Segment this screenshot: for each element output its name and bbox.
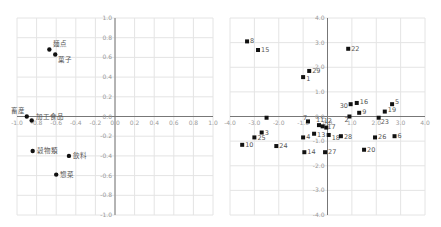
point-label: 畜産: [11, 106, 25, 115]
data-point: 20: [362, 146, 375, 154]
square-marker-icon: [265, 116, 269, 120]
square-marker-icon: [245, 39, 249, 43]
x-tick-label: 3.0: [396, 119, 406, 126]
point-label: 20: [367, 146, 375, 154]
square-marker-icon: [327, 133, 331, 137]
square-marker-icon: [355, 101, 359, 105]
data-point: 9: [357, 108, 366, 116]
y-tick-label: 0.4: [102, 73, 112, 80]
square-marker-icon: [256, 48, 260, 52]
point-label: 7: [303, 114, 307, 122]
point-label: 10: [245, 141, 253, 149]
square-marker-icon: [307, 69, 311, 73]
point-label: 6: [398, 132, 402, 140]
y-tick-label: -0.6: [100, 172, 112, 179]
x-tick-label: -1.0: [11, 119, 23, 126]
right-data-points: 8152229130165199223711121731318286254261…: [240, 37, 401, 156]
square-marker-icon: [349, 102, 353, 106]
data-point: 10: [240, 141, 253, 149]
circle-marker-icon: [25, 114, 29, 118]
square-marker-icon: [373, 135, 377, 139]
square-marker-icon: [312, 132, 316, 136]
circle-marker-icon: [53, 52, 57, 56]
point-label: 13: [317, 131, 325, 139]
data-point: 29: [307, 67, 320, 75]
data-point: 4: [301, 133, 310, 141]
data-point: 27: [323, 148, 336, 156]
y-tick-label: 1.0: [102, 14, 112, 21]
x-tick-label: 0.4: [149, 119, 159, 126]
point-label: 27: [328, 148, 336, 156]
y-tick-label: 0.6: [102, 53, 112, 60]
square-marker-icon: [302, 150, 306, 154]
data-point: 穀物類: [30, 146, 57, 155]
data-point: 惣菜: [54, 170, 74, 179]
data-point: 1: [301, 75, 310, 83]
point-label: 17: [327, 123, 335, 131]
data-point: 6: [393, 132, 402, 140]
square-marker-icon: [357, 111, 361, 115]
point-label: 4: [306, 133, 310, 141]
square-marker-icon: [301, 75, 305, 79]
y-tick-label: -3.0: [313, 186, 325, 193]
point-label: 26: [378, 133, 386, 141]
x-tick-label: -0.2: [90, 119, 102, 126]
point-label: 24: [279, 142, 287, 150]
circle-marker-icon: [47, 47, 51, 51]
circle-marker-icon: [30, 118, 34, 122]
y-tick-label: 0.2: [102, 93, 112, 100]
y-tick-label: -2.0: [313, 162, 325, 169]
point-label: 惣菜: [60, 170, 74, 179]
y-tick-label: -0.8: [100, 191, 112, 198]
point-label: 30: [340, 102, 348, 110]
y-tick-label: 3.0: [315, 39, 325, 46]
square-marker-icon: [274, 144, 278, 148]
point-label: 23: [381, 118, 389, 126]
circle-marker-icon: [54, 172, 58, 176]
point-label: 18: [332, 134, 340, 142]
point-label: 2: [344, 116, 348, 124]
data-point: 8: [245, 37, 254, 45]
x-tick-label: 4.0: [420, 119, 430, 126]
circle-marker-icon: [30, 149, 34, 153]
point-label: 19: [388, 106, 396, 114]
point-label: 1: [306, 75, 310, 83]
y-tick-label: -0.4: [100, 152, 112, 159]
point-label: 28: [344, 133, 352, 141]
point-label: 飲料: [73, 151, 87, 160]
data-point: [265, 116, 269, 120]
x-tick-label: -3.0: [249, 119, 261, 126]
data-point: 麺点: [47, 39, 67, 52]
point-label: 菓子: [58, 55, 72, 64]
x-tick-label: -4.0: [224, 119, 236, 126]
y-tick-label: 0.8: [102, 34, 112, 41]
data-point: 26: [373, 133, 386, 141]
point-label: 麺点: [53, 39, 67, 48]
square-marker-icon: [301, 135, 305, 139]
square-marker-icon: [362, 148, 366, 152]
data-point: 18: [327, 133, 340, 142]
data-point: 16: [355, 98, 368, 106]
data-point: 14: [302, 148, 315, 156]
point-label: 25: [257, 134, 265, 142]
x-tick-label: 0.2: [130, 119, 140, 126]
point-label: 加工食品: [36, 112, 64, 121]
x-tick-label: -2.0: [273, 119, 285, 126]
point-label: 16: [360, 98, 368, 106]
data-point: 30: [340, 102, 353, 110]
square-marker-icon: [346, 47, 350, 51]
square-marker-icon: [393, 134, 397, 138]
x-tick-label: 0.0: [110, 119, 120, 126]
data-point: 飲料: [67, 151, 87, 160]
y-tick-label: -4.0: [313, 211, 325, 218]
point-label: 22: [351, 45, 359, 53]
circle-marker-icon: [67, 154, 71, 158]
point-label: 14: [307, 148, 315, 156]
data-point: 24: [274, 142, 287, 150]
square-marker-icon: [323, 150, 327, 154]
x-tick-label: 1.0: [208, 119, 218, 126]
square-marker-icon: [252, 135, 256, 139]
point-label: 15: [261, 46, 269, 54]
square-marker-icon: [339, 134, 343, 138]
left-scatter-chart: -1.0-0.8-0.6-0.4-0.20.00.20.40.60.81.01.…: [0, 0, 441, 227]
